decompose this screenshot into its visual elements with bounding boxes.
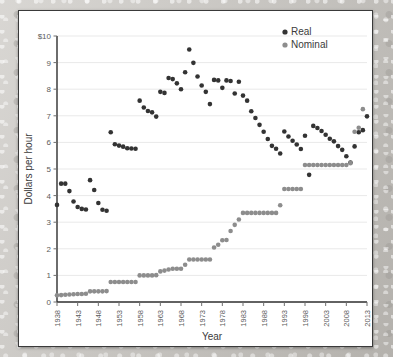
data-point <box>104 289 109 294</box>
data-point <box>290 139 295 144</box>
series-real <box>55 47 370 213</box>
y-tick-label: 4 <box>47 192 52 201</box>
y-tick-label: 7 <box>47 112 52 121</box>
data-point <box>323 163 328 168</box>
data-point <box>162 91 167 96</box>
data-point <box>245 211 250 216</box>
data-point <box>365 114 370 119</box>
y-tick-label: 8 <box>47 85 52 94</box>
data-point <box>113 142 118 147</box>
data-point <box>55 293 60 298</box>
data-point <box>232 91 237 96</box>
data-point <box>146 109 151 114</box>
data-point <box>228 79 233 84</box>
data-point <box>166 267 171 272</box>
data-point <box>150 273 155 278</box>
data-point <box>361 128 366 133</box>
data-point <box>344 154 349 159</box>
x-tick-label: 1948 <box>94 310 103 327</box>
legend-marker-nominal <box>282 42 287 47</box>
data-point <box>71 292 76 297</box>
data-point <box>59 181 64 186</box>
data-point <box>166 76 171 81</box>
data-point <box>208 102 213 107</box>
data-point <box>278 203 283 208</box>
data-point <box>361 107 366 112</box>
data-point <box>175 266 180 271</box>
data-point <box>319 129 324 134</box>
x-tick-label: 2013 <box>363 310 372 327</box>
data-point <box>294 187 299 192</box>
data-point <box>328 163 333 168</box>
data-point <box>220 238 225 243</box>
legend-label-nominal: Nominal <box>291 39 328 50</box>
data-point <box>261 129 266 134</box>
data-point <box>84 207 89 212</box>
data-point <box>108 280 113 285</box>
data-point <box>315 126 320 131</box>
y-tick-label: 6 <box>47 138 52 147</box>
data-point <box>270 144 275 149</box>
legend: RealNominal <box>282 26 327 50</box>
data-point <box>117 143 122 148</box>
data-point <box>216 78 221 83</box>
data-point <box>146 273 151 278</box>
data-point <box>303 133 308 138</box>
x-tick-label: 1938 <box>53 310 62 327</box>
data-point <box>63 293 68 298</box>
data-point <box>154 273 159 278</box>
data-point <box>170 77 175 82</box>
data-point <box>257 211 262 216</box>
data-point <box>212 78 217 83</box>
data-point <box>154 114 159 119</box>
data-point <box>348 161 353 166</box>
y-tick-label: 0 <box>47 298 52 307</box>
data-point <box>266 137 271 142</box>
data-point <box>129 146 134 151</box>
data-point <box>125 146 130 151</box>
data-point <box>336 163 341 168</box>
legend-label-real: Real <box>291 26 312 37</box>
y-tick-label: 5 <box>47 165 52 174</box>
data-point <box>332 163 337 168</box>
data-point <box>187 257 192 262</box>
data-point <box>290 187 295 192</box>
data-point <box>104 208 109 213</box>
x-tick-label: 1953 <box>115 310 124 327</box>
data-point <box>237 79 242 84</box>
data-point <box>332 139 337 144</box>
data-point <box>142 105 147 110</box>
data-point <box>158 90 163 95</box>
data-point <box>191 61 196 66</box>
x-tick-label: 1993 <box>280 310 289 327</box>
data-point <box>257 123 262 128</box>
data-point <box>286 187 291 192</box>
y-tick-label: 9 <box>47 59 52 68</box>
data-point <box>253 116 258 121</box>
data-point <box>253 211 258 216</box>
data-point <box>67 189 72 194</box>
data-point <box>241 211 246 216</box>
data-point <box>183 70 188 75</box>
data-point <box>311 163 316 168</box>
x-tick-label: 1988 <box>260 310 269 327</box>
data-point <box>220 86 225 91</box>
data-point <box>344 163 349 168</box>
data-point <box>71 199 76 204</box>
x-tick-label: 2003 <box>322 310 331 327</box>
data-point <box>129 280 134 285</box>
data-point <box>121 280 126 285</box>
data-point <box>216 243 221 248</box>
x-tick-label: 1968 <box>177 310 186 327</box>
y-tick-label: 1 <box>47 271 52 280</box>
data-point <box>179 87 184 92</box>
data-point <box>299 187 304 192</box>
data-point <box>282 187 287 192</box>
data-point <box>274 211 279 216</box>
data-point <box>261 211 266 216</box>
data-point <box>133 280 138 285</box>
data-point <box>294 142 299 147</box>
data-point <box>137 98 142 103</box>
x-tick-label: 1978 <box>218 310 227 327</box>
data-point <box>158 269 163 274</box>
